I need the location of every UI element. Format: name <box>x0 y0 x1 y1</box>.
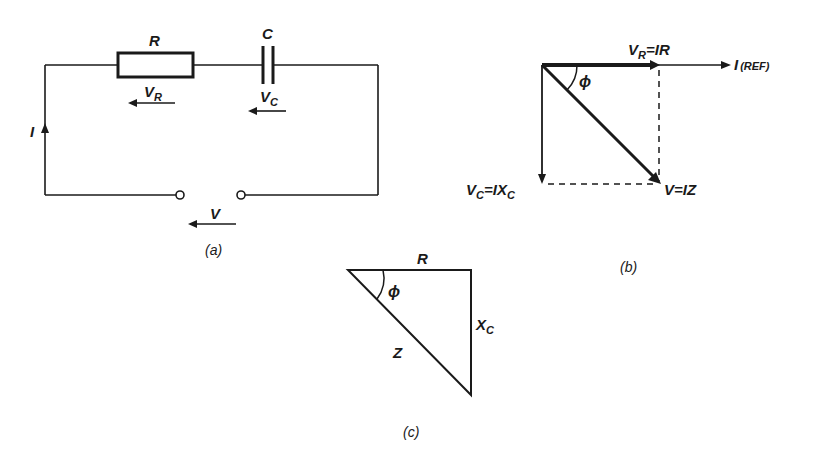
triangle-xc-label: XC <box>475 316 495 336</box>
vr-phasor-arrow-icon <box>650 60 660 70</box>
v-equation-label: V=IZ <box>664 181 697 198</box>
series-rc-circuit <box>45 46 378 199</box>
caption-a: (a) <box>205 242 222 258</box>
triangle-angle-label: ϕ <box>388 283 400 300</box>
impedance-triangle-shape <box>348 270 471 395</box>
vr-equation-label: VR=IR <box>628 41 670 61</box>
triangle-angle-arc <box>377 270 384 299</box>
vc-label: VC <box>260 88 279 108</box>
vr-label: VR <box>144 83 162 103</box>
phase-angle-label: ϕ <box>579 73 591 90</box>
capacitor-label: C <box>262 25 274 42</box>
impedance-triangle <box>348 270 471 395</box>
diagram-canvas: I R C VR VC V (a) VR=I <box>0 0 813 456</box>
vc-equation-label: VC=IXC <box>466 181 516 201</box>
resistor-symbol <box>118 53 193 77</box>
caption-c: (c) <box>403 424 419 440</box>
resistor-label: R <box>149 32 160 49</box>
terminal-left <box>176 191 184 199</box>
triangle-r-label: R <box>417 250 428 267</box>
phase-angle-arc <box>567 65 577 90</box>
current-arrow-icon <box>41 123 49 133</box>
reference-current-label: I(REF) <box>734 56 770 73</box>
v-phasor <box>542 65 654 177</box>
supply-voltage-label: V <box>210 205 222 222</box>
vr-arrow-icon <box>128 99 175 107</box>
vc-phasor-arrow-icon <box>538 174 546 184</box>
current-label: I <box>30 123 35 140</box>
reference-arrow-icon <box>721 61 731 69</box>
phasor-diagram <box>538 60 731 184</box>
triangle-z-label: Z <box>392 344 403 361</box>
caption-b: (b) <box>620 259 637 275</box>
vc-arrow-icon <box>248 107 286 115</box>
terminal-right <box>237 191 245 199</box>
